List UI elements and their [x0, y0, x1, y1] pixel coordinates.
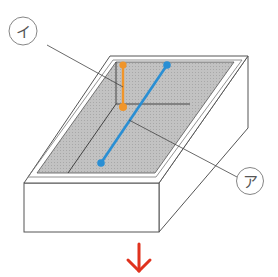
blue-endpoint-bottom: [97, 159, 105, 167]
down-arrow-icon: [128, 244, 150, 271]
blue-endpoint-top: [163, 61, 171, 69]
orange-endpoint-top: [119, 61, 126, 68]
box-front-face: [24, 183, 159, 232]
tray-diagram: イ ア: [0, 0, 278, 277]
label-a: ア: [237, 168, 264, 195]
label-i: イ: [9, 17, 37, 45]
orange-endpoint-bottom: [119, 103, 127, 111]
label-a-text: ア: [243, 173, 258, 191]
label-i-text: イ: [16, 23, 31, 41]
